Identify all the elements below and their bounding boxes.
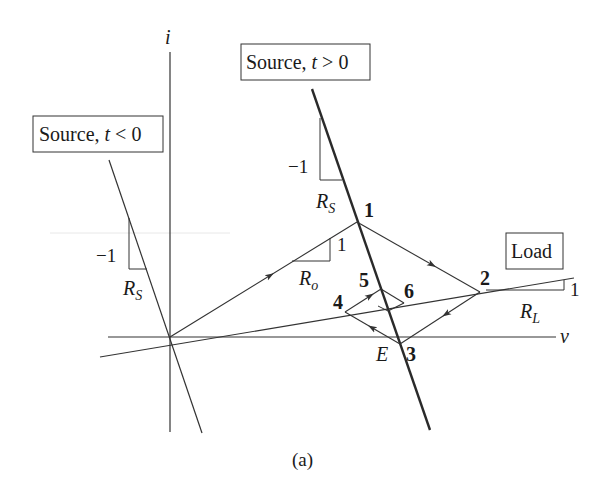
ro-slope-run: Ro [298, 267, 318, 293]
trajectory-1-to-2 [357, 222, 480, 292]
source-before-label: Source, t < 0 [39, 123, 141, 145]
load-slope-run: RL [519, 300, 540, 326]
point-5-label: 5 [359, 269, 369, 291]
ro-slope-triangle [292, 238, 330, 261]
load-label: Load [511, 240, 552, 262]
load-line-diagram: i v −1 RS Source, t < 0 Source, t > 0 −1… [0, 0, 609, 494]
ro-slope-rise: 1 [337, 234, 347, 255]
point-e-label: E [375, 343, 388, 365]
source-after-slope-rise: −1 [288, 156, 308, 177]
source-before-slope-run: RS [122, 277, 142, 303]
figure-caption: (a) [292, 449, 313, 471]
source-before-slope-rise: −1 [96, 245, 116, 266]
source-after-slope-triangle [320, 118, 342, 180]
trajectory-4-to-5 [345, 289, 381, 312]
load-slope-rise: 1 [570, 279, 580, 300]
point-6-label: 6 [404, 280, 414, 302]
v-axis-label: v [560, 325, 569, 347]
source-after-slope-run: RS [315, 190, 335, 216]
point-4-label: 4 [333, 291, 343, 313]
point-2-label: 2 [480, 267, 490, 289]
point-1-label: 1 [364, 199, 374, 221]
source-after-label: Source, t > 0 [246, 51, 348, 73]
i-axis-label: i [165, 26, 171, 48]
point-3-label: 3 [406, 343, 416, 365]
trajectory-origin-to-1 [170, 222, 357, 337]
